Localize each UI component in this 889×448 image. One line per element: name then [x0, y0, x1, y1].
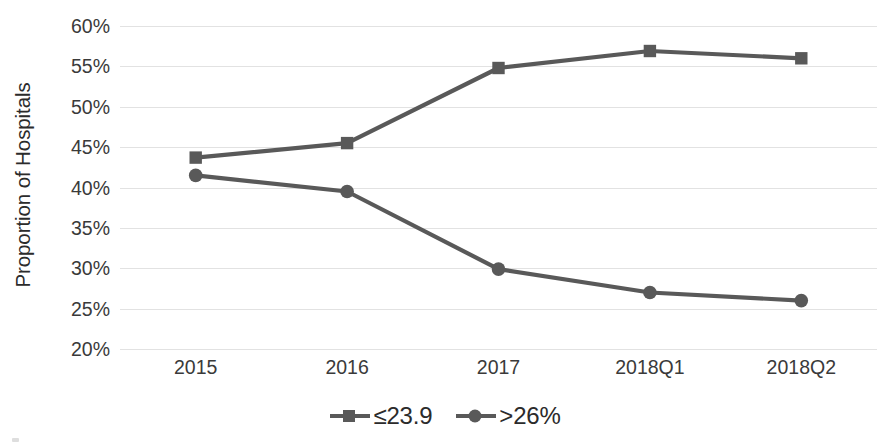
series-line: [196, 175, 802, 300]
square-marker-icon: [644, 45, 656, 57]
x-axis-tick-label: 2017: [477, 356, 520, 379]
legend-label: ≤23.9: [373, 402, 432, 430]
y-axis-tick-label: 55%: [71, 55, 110, 78]
chart-legend: ≤23.9>26%: [0, 396, 889, 436]
y-axis-tick-label: 25%: [71, 297, 110, 320]
x-axis-tick-label: 2018Q2: [767, 356, 836, 379]
legend-entry[interactable]: >26%: [454, 402, 560, 430]
y-axis-title: Proportion of Hospitals: [0, 0, 46, 370]
x-axis-tick-label: 2018Q1: [615, 356, 684, 379]
circle-marker-icon: [492, 262, 506, 276]
circle-marker-icon-glyph: [469, 410, 482, 423]
square-marker-icon: [341, 137, 353, 149]
square-marker-icon: [492, 62, 504, 74]
square-marker-icon: [795, 52, 807, 64]
legend-entry[interactable]: ≤23.9: [328, 402, 432, 430]
scan-artifact: [12, 438, 19, 442]
y-axis-tick-label: 40%: [71, 176, 110, 199]
y-axis-tick-labels: 60%55%50%45%40%35%30%25%20%: [48, 0, 114, 370]
y-axis-tick-label: 20%: [71, 338, 110, 361]
line-chart: Proportion of Hospitals 60%55%50%45%40%3…: [0, 0, 889, 448]
plot-area: [120, 26, 877, 349]
circle-marker-icon: [454, 405, 498, 427]
x-axis-tick-label: 2015: [174, 356, 217, 379]
y-axis-tick-label: 60%: [71, 15, 110, 38]
y-axis-tick-label: 45%: [71, 136, 110, 159]
y-axis-title-text: Proportion of Hospitals: [11, 82, 35, 287]
series-2: [189, 169, 808, 308]
x-axis-tick-labels: 2015201620172018Q12018Q2: [120, 356, 877, 390]
square-marker-icon: [190, 151, 202, 163]
square-marker-icon: [328, 405, 372, 427]
series-layer: [120, 26, 877, 349]
x-axis-tick-label: 2016: [325, 356, 368, 379]
gridline: [120, 349, 877, 350]
circle-marker-icon: [795, 294, 809, 308]
circle-marker-icon: [189, 169, 203, 183]
legend-label: >26%: [499, 402, 560, 430]
y-axis-tick-label: 50%: [71, 95, 110, 118]
square-marker-icon-glyph: [343, 410, 355, 422]
circle-marker-icon: [643, 286, 657, 300]
y-axis-tick-label: 30%: [71, 257, 110, 280]
y-axis-tick-label: 35%: [71, 216, 110, 239]
series-1: [190, 45, 808, 164]
circle-marker-icon: [340, 185, 354, 199]
